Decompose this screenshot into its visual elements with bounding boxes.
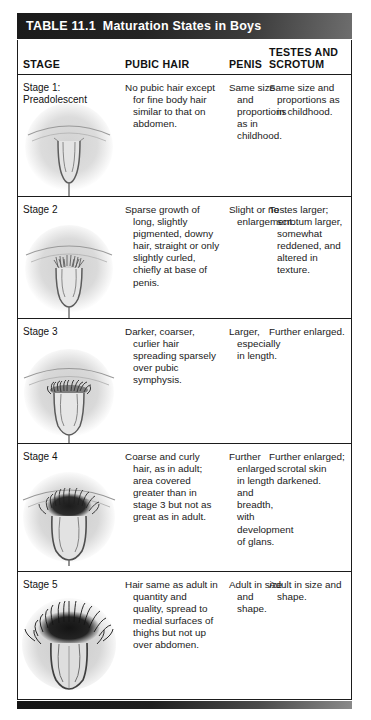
testes-scrotum-description: Adult in size and shape. xyxy=(269,579,349,603)
pubic-hair-description: Sparse growth of long, slightly pigmente… xyxy=(125,204,220,289)
stage-4-genitalia-illustration xyxy=(18,470,121,566)
column-header-testes-and-scrotum: TESTES AND SCROTUM xyxy=(269,47,338,70)
pubic-hair-description: Coarse and curly hair, as in adult; area… xyxy=(125,451,220,524)
column-header-pubic-hair: PUBIC HAIR xyxy=(125,59,189,71)
maturation-states-table: STAGE PUBIC HAIR PENIS TESTES AND SCROTU… xyxy=(17,40,352,700)
table-row: Stage 4 xyxy=(18,444,351,572)
stage-label: Stage 5 xyxy=(23,579,121,591)
pubic-hair-description: Hair same as adult in quantity and quali… xyxy=(125,579,220,652)
pubic-hair-description: Darker, coarser, curlier hair spreading … xyxy=(125,326,220,386)
stage-5-genitalia-illustration xyxy=(18,596,121,692)
stage-2-genitalia-illustration xyxy=(18,223,121,319)
preadolescent-genitalia-illustration xyxy=(18,101,121,197)
column-header-penis: PENIS xyxy=(229,59,262,71)
pubic-hair-description: No pubic hair except for fine body hair … xyxy=(125,82,220,130)
table-number: TABLE 11.1 xyxy=(26,19,96,33)
table-row: Stage 5 xyxy=(18,572,351,699)
table-header-row: STAGE PUBIC HAIR PENIS TESTES AND SCROTU… xyxy=(18,40,351,75)
table-row: Stage 2 xyxy=(18,197,351,319)
column-header-stage: STAGE xyxy=(23,59,60,71)
table-title: TABLE 11.1Maturation States in Boys xyxy=(17,19,261,33)
testes-scrotum-description: Further enlarged; scrotal skin darkened. xyxy=(269,451,349,487)
table-row: Stage 3 xyxy=(18,319,351,444)
testes-scrotum-description: Same size and proportions as in childhoo… xyxy=(269,82,349,118)
table-page: TABLE 11.1Maturation States in Boys STAG… xyxy=(0,0,371,720)
testes-scrotum-description: Testes larger; scrotum larger, somewhat … xyxy=(269,204,349,277)
stage-label: Stage 2 xyxy=(23,204,121,216)
table-title-text: Maturation States in Boys xyxy=(103,19,262,33)
stage-3-genitalia-illustration xyxy=(18,347,121,443)
table-footer-bar xyxy=(17,701,352,709)
testes-scrotum-description: Further enlarged. xyxy=(269,326,349,338)
table-row: Stage 1: Preadolescent xyxy=(18,75,351,197)
stage-label: Stage 4 xyxy=(23,451,121,463)
column-header-testes-line1: TESTES AND xyxy=(269,46,338,58)
column-header-testes-line2: SCROTUM xyxy=(269,58,324,70)
table-title-bar: TABLE 11.1Maturation States in Boys xyxy=(17,13,352,39)
stage-label: Stage 3 xyxy=(23,326,121,338)
